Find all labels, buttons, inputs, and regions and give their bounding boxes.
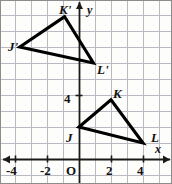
- tick-label-5: 4: [64, 92, 71, 105]
- coordinate-plane-figure: K'J'L'KJLyx-4-2O244: [0, 0, 172, 184]
- tick-label-0: -4: [6, 164, 17, 177]
- tick-label-4: 4: [137, 164, 144, 177]
- vertex-label-k: K: [113, 87, 122, 100]
- tick-label-1: -2: [40, 164, 51, 177]
- axis-name-y: y: [87, 4, 92, 16]
- tick-label-2: O: [66, 164, 76, 177]
- vertex-label-j-prime: J': [8, 40, 18, 53]
- axis-name-x: x: [155, 143, 161, 155]
- coordinate-plane-svg: [0, 0, 172, 184]
- vertex-label-l-prime: L': [97, 63, 109, 76]
- vertex-label-k-prime: K': [59, 3, 71, 16]
- vertex-label-j: J: [66, 131, 73, 144]
- tick-label-3: 2: [106, 164, 113, 177]
- figure-background: [0, 0, 172, 184]
